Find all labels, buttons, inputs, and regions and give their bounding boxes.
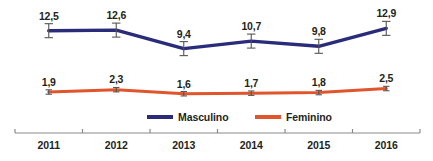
data-label-masculino-2012: 12,6 [96, 9, 136, 21]
legend-item-feminino[interactable]: Feminino [255, 110, 332, 124]
legend-label-masculino: Masculino [178, 111, 228, 123]
x-axis-tick-2015: 2015 [289, 139, 349, 151]
data-label-feminino-2011: 1,9 [29, 76, 69, 88]
data-label-masculino-2013: 9,4 [164, 28, 204, 40]
data-label-feminino-2012: 2,3 [96, 73, 136, 85]
legend-item-masculino[interactable]: Masculino [147, 110, 228, 124]
line-chart: 12,5 12,6 9,4 10,7 9,8 12,9 1,9 2,3 1,6 … [0, 0, 433, 161]
data-label-feminino-2015: 1,8 [299, 76, 339, 88]
data-label-feminino-2016: 2,5 [366, 72, 406, 84]
x-axis-tick-2011: 2011 [19, 139, 79, 151]
x-axis-tick-2014: 2014 [221, 139, 281, 151]
legend-swatch-masculino [147, 115, 173, 119]
legend-label-feminino: Feminino [286, 111, 332, 123]
data-label-masculino-2011: 12,5 [29, 10, 69, 22]
data-label-masculino-2016: 12,9 [366, 7, 406, 19]
data-label-feminino-2013: 1,6 [164, 78, 204, 90]
x-axis-tick-2013: 2013 [154, 139, 214, 151]
data-label-feminino-2014: 1,7 [231, 77, 271, 89]
data-label-masculino-2014: 10,7 [231, 20, 271, 32]
x-axis-tick-2016: 2016 [356, 139, 416, 151]
legend-swatch-feminino [255, 115, 281, 119]
x-axis-tick-2012: 2012 [86, 139, 146, 151]
data-label-masculino-2015: 9,8 [299, 25, 339, 37]
